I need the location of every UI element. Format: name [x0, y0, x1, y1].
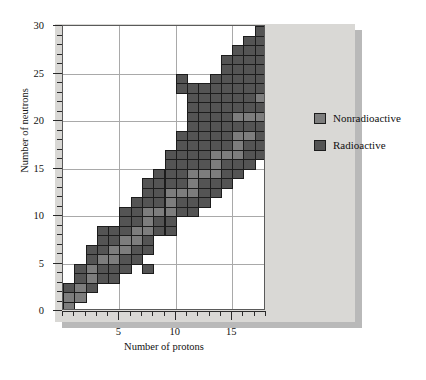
x-tick-major — [175, 311, 176, 320]
cell-radioactive — [255, 150, 264, 161]
x-axis-ticks — [57, 311, 270, 325]
cell-nonradioactive — [74, 292, 86, 303]
plot-cells-layer — [63, 26, 264, 309]
plot-area — [62, 25, 265, 310]
x-tick-minor — [209, 311, 210, 316]
legend-item: Nonradioactive — [314, 112, 424, 124]
x-tick-minor — [96, 311, 97, 316]
cell-radioactive — [232, 169, 244, 180]
cell-radioactive — [255, 45, 264, 56]
figure-root: 051015202530 Number of neutrons 51015 Nu… — [0, 0, 426, 380]
cell-radioactive — [255, 121, 264, 132]
cell-radioactive — [221, 178, 233, 189]
x-tick-minor — [220, 311, 221, 316]
cell-radioactive — [86, 283, 98, 294]
cell-radioactive — [142, 245, 154, 256]
x-tick-label: 5 — [116, 326, 121, 337]
cell-radioactive — [255, 55, 264, 66]
x-tick-minor — [152, 311, 153, 316]
x-tick-minor — [73, 311, 74, 316]
y-axis-title: Number of neutrons — [19, 61, 30, 201]
x-tick-label: 15 — [226, 326, 237, 337]
x-tick-major — [231, 311, 232, 320]
cell-radioactive — [210, 188, 222, 199]
y-tick-major — [53, 120, 62, 121]
cell-radioactive — [165, 216, 177, 227]
legend-label-nonradioactive: Nonradioactive — [333, 112, 401, 124]
legend-item: Radioactive — [314, 139, 424, 151]
cell-radioactive — [255, 83, 264, 94]
cell-radioactive — [198, 197, 210, 208]
legend: Nonradioactive Radioactive — [314, 112, 424, 166]
cell-radioactive — [255, 36, 264, 47]
x-axis-tick-labels: 51015 — [62, 326, 272, 340]
cell-radioactive — [255, 131, 264, 142]
legend-swatch-radioactive — [314, 140, 326, 151]
y-tick-label: 15 — [34, 162, 45, 173]
cell-nonradioactive — [255, 112, 264, 123]
cell-radioactive — [255, 102, 264, 113]
cell-radioactive — [187, 207, 199, 218]
y-tick-label: 25 — [34, 67, 45, 78]
cell-radioactive — [255, 64, 264, 75]
legend-label-radioactive: Radioactive — [333, 139, 386, 151]
cell-radioactive — [108, 273, 120, 284]
x-tick-minor — [242, 311, 243, 316]
x-tick-minor — [62, 311, 63, 316]
y-tick-label: 5 — [39, 257, 44, 268]
x-tick-major — [118, 311, 119, 320]
x-tick-minor — [164, 311, 165, 316]
y-tick-major — [53, 73, 62, 74]
y-tick-label: 10 — [34, 210, 45, 221]
cell-nonradioactive — [255, 93, 264, 104]
cell-radioactive — [255, 26, 264, 37]
cell-radioactive — [255, 74, 264, 85]
cell-radioactive — [243, 159, 255, 170]
y-tick-major — [53, 25, 62, 26]
legend-swatch-nonradioactive — [314, 113, 326, 124]
x-tick-minor — [141, 311, 142, 316]
cell-radioactive — [255, 140, 264, 151]
x-tick-minor — [85, 311, 86, 316]
x-tick-minor — [254, 311, 255, 316]
y-tick-label: 30 — [34, 20, 45, 31]
x-tick-minor — [186, 311, 187, 316]
x-tick-minor — [197, 311, 198, 316]
cell-radioactive — [142, 264, 154, 275]
y-tick-major — [53, 263, 62, 264]
cell-radioactive — [165, 226, 177, 237]
x-tick-minor — [130, 311, 131, 316]
y-axis-ticks — [46, 20, 62, 315]
x-axis-title: Number of protons — [62, 341, 266, 352]
y-tick-label: 0 — [39, 305, 44, 316]
x-tick-label: 10 — [170, 326, 181, 337]
cell-radioactive — [142, 235, 154, 246]
y-tick-label: 20 — [34, 115, 45, 126]
cell-nonradioactive — [63, 302, 75, 310]
y-tick-major — [53, 168, 62, 169]
x-tick-minor — [107, 311, 108, 316]
cell-radioactive — [119, 264, 131, 275]
y-tick-major — [53, 215, 62, 216]
x-tick-minor — [265, 311, 266, 316]
